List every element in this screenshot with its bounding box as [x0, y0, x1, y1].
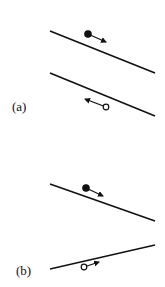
track-line	[50, 184, 155, 221]
open-particle-icon	[103, 104, 109, 110]
track-line	[50, 245, 155, 269]
diagram-canvas	[0, 0, 165, 287]
panel-b	[50, 184, 155, 270]
filled-particle-icon	[85, 31, 91, 37]
panel-a-label: (a)	[12, 99, 26, 115]
track-line	[50, 73, 155, 116]
panel-b-label: (b)	[16, 263, 31, 279]
panel-a	[50, 31, 155, 116]
open-particle-icon	[81, 264, 87, 270]
filled-particle-icon	[83, 185, 89, 191]
track-line	[50, 31, 155, 73]
